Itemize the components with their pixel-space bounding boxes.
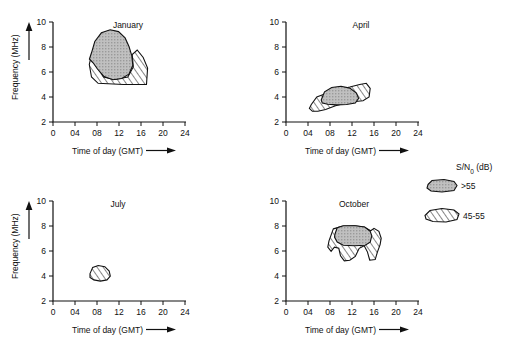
x-tick-label: 08: [325, 128, 335, 138]
y-tick-label: 4: [274, 92, 279, 102]
y-tick-label: 2: [41, 296, 46, 306]
x-tick-label: 04: [303, 128, 313, 138]
x-tick-label: 16: [369, 307, 379, 317]
x-axis-arrow-icon: [146, 326, 176, 332]
x-tick-label: 20: [158, 128, 168, 138]
legend-label-gt-55: >55: [461, 181, 476, 191]
legend-title-text: S/N: [456, 162, 470, 172]
panel-january-plot: 2 4 6 8 10 Frequency (MHz) 0 04 08 12 16…: [0, 0, 266, 173]
x-tick-label: 16: [136, 128, 146, 138]
x-tick-label: 08: [92, 128, 102, 138]
x-tick-label: 08: [325, 307, 335, 317]
x-tick-label: 0: [51, 128, 56, 138]
x-axis-arrow-icon: [379, 147, 409, 153]
x-axis-title: Time of day (GMT): [305, 325, 376, 335]
y-tick-label: 2: [274, 296, 279, 306]
x-tick-label: 16: [369, 128, 379, 138]
y-tick-label: 4: [41, 271, 46, 281]
axes: [53, 201, 186, 301]
panel-title: October: [339, 199, 369, 209]
region-45-55: [90, 266, 110, 282]
x-tick-label: 0: [284, 128, 289, 138]
panel-title: July: [110, 199, 126, 209]
x-tick-label: 12: [347, 307, 357, 317]
panel-january: 2 4 6 8 10 Frequency (MHz) 0 04 08 12 16…: [0, 0, 266, 173]
y-tick-label: 10: [37, 196, 47, 206]
y-tick-label: 10: [270, 17, 280, 27]
legend-swatch-gt-55: [427, 180, 457, 193]
x-tick-label: 0: [284, 307, 289, 317]
y-axis-arrow-icon: [26, 201, 33, 239]
x-axis-title: Time of day (GMT): [72, 325, 143, 335]
y-axis-title: Frequency (MHz): [10, 213, 20, 279]
x-tick-label: 20: [158, 307, 168, 317]
x-tick-label: 20: [391, 128, 401, 138]
axes: [286, 22, 419, 122]
x-tick-label: 12: [114, 307, 124, 317]
y-axis-arrow-icon: [26, 22, 33, 60]
x-tick-label: 16: [136, 307, 146, 317]
y-tick-label: 6: [41, 67, 46, 77]
panel-july-plot: 2 4 6 8 10 Frequency (MHz) 0 04 08 12 16…: [0, 173, 266, 346]
y-tick-label: 6: [41, 246, 46, 256]
legend-swatch-45-55: [425, 209, 459, 223]
panel-title: April: [352, 20, 369, 30]
x-tick-label: 24: [413, 128, 423, 138]
y-tick-label: 4: [41, 92, 46, 102]
y-tick-label: 2: [41, 117, 46, 127]
x-tick-label: 04: [70, 128, 80, 138]
legend-label-45-55: 45-55: [463, 211, 485, 221]
y-tick-label: 4: [274, 271, 279, 281]
y-tick-label: 8: [41, 42, 46, 52]
legend-plot: S/N0 (dB) >55 45-55: [400, 160, 532, 242]
x-axis-arrow-icon: [379, 326, 409, 332]
x-axis-title: Time of day (GMT): [305, 146, 376, 156]
y-tick-label: 8: [274, 221, 279, 231]
y-tick-label: 8: [41, 221, 46, 231]
x-tick-label: 20: [391, 307, 401, 317]
panel-april-plot: 2 4 6 8 10 0 04 08 12 16 20 24 Time of d…: [266, 0, 532, 173]
region-gt-55: [335, 226, 372, 246]
x-tick-label: 24: [180, 307, 190, 317]
panel-title: January: [113, 20, 144, 30]
legend: S/N0 (dB) >55 45-55: [400, 160, 532, 242]
x-tick-label: 24: [180, 128, 190, 138]
x-tick-label: 04: [70, 307, 80, 317]
y-ticks: [282, 201, 286, 301]
y-tick-label: 6: [274, 67, 279, 77]
y-tick-label: 8: [274, 42, 279, 52]
panel-april: 2 4 6 8 10 0 04 08 12 16 20 24 Time of d…: [266, 0, 532, 173]
x-axis-arrow-icon: [146, 147, 176, 153]
y-axis-title: Frequency (MHz): [10, 34, 20, 100]
x-tick-label: 12: [114, 128, 124, 138]
x-tick-label: 08: [92, 307, 102, 317]
figure-root: 2 4 6 8 10 Frequency (MHz) 0 04 08 12 16…: [0, 0, 532, 346]
x-axis-title: Time of day (GMT): [72, 146, 143, 156]
legend-title: S/N0 (dB): [456, 162, 492, 175]
y-tick-label: 10: [270, 196, 280, 206]
y-ticks: [282, 22, 286, 122]
x-tick-label: 0: [51, 307, 56, 317]
panel-july: 2 4 6 8 10 Frequency (MHz) 0 04 08 12 16…: [0, 173, 266, 346]
y-tick-label: 2: [274, 117, 279, 127]
x-tick-label: 24: [413, 307, 423, 317]
y-tick-label: 10: [37, 17, 47, 27]
x-tick-label: 12: [347, 128, 357, 138]
x-tick-label: 04: [303, 307, 313, 317]
y-tick-label: 6: [274, 246, 279, 256]
